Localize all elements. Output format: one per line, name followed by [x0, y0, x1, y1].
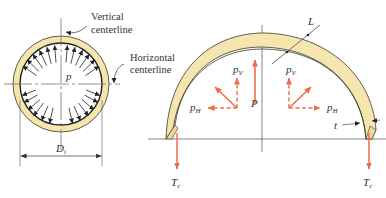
resultant-force-label: P [250, 97, 258, 109]
horizontal-centerline-label-line2: centerline [130, 64, 172, 75]
thickness-leader [342, 123, 360, 125]
pv-left-label: pV [232, 63, 244, 77]
cross-section-view: p Vertical centerline Horizontal centerl… [4, 11, 175, 166]
thin-walled-cylinder-diagram: p Vertical centerline Horizontal centerl… [0, 0, 386, 198]
vertical-centerline-label-line2: centerline [91, 24, 133, 35]
pressure-label: p [65, 70, 72, 82]
p-right-normal-arrow [289, 87, 311, 108]
vertical-centerline-label-line1: Vertical [91, 11, 124, 22]
ph-left-label: pH [189, 101, 202, 115]
p-left-normal-arrow [215, 87, 237, 108]
length-dim-point-outer [307, 34, 310, 37]
ph-right-label: pH [326, 101, 339, 115]
thickness-label: t [334, 119, 338, 131]
tc-left-label: Tc [171, 176, 181, 190]
vertical-centerline-leader [66, 26, 87, 33]
horizontal-centerline-leader [114, 64, 124, 83]
length-label: L [307, 15, 314, 27]
diameter-label: Di [55, 142, 66, 156]
half-cylinder-free-body: L t P pV pH pV pH Tc Tc [148, 15, 386, 190]
horizontal-centerline-label-line1: Horizontal [130, 52, 175, 63]
pv-right-label: pV [285, 63, 297, 77]
tc-right-label: Tc [363, 176, 373, 190]
length-dim-point-inner [286, 51, 289, 54]
